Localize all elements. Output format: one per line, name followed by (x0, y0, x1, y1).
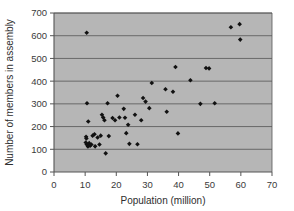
y-tick-label-0: 0 (42, 166, 47, 177)
y-tick-label-600: 600 (31, 30, 47, 41)
x-tick-label-40: 40 (173, 179, 184, 190)
chart-canvas: 0100200300400500600700010203040506070Pop… (0, 0, 294, 211)
y-tick-label-100: 100 (31, 144, 47, 155)
y-tick-label-700: 700 (31, 7, 47, 18)
y-tick-label-200: 200 (31, 121, 47, 132)
x-tick-label-10: 10 (80, 179, 91, 190)
scatter-plot-figure: 0100200300400500600700010203040506070Pop… (0, 0, 294, 211)
x-tick-label-70: 70 (267, 179, 278, 190)
x-tick-label-30: 30 (142, 179, 153, 190)
x-tick-label-50: 50 (204, 179, 215, 190)
x-tick-label-0: 0 (51, 179, 56, 190)
y-tick-label-300: 300 (31, 98, 47, 109)
plot-background (54, 13, 272, 172)
x-axis-title: Population (million) (120, 195, 205, 206)
y-axis-title: Number of members in assembly (4, 19, 15, 166)
x-tick-label-60: 60 (236, 179, 247, 190)
y-tick-label-500: 500 (31, 53, 47, 64)
x-tick-label-20: 20 (111, 179, 122, 190)
y-tick-label-400: 400 (31, 76, 47, 87)
